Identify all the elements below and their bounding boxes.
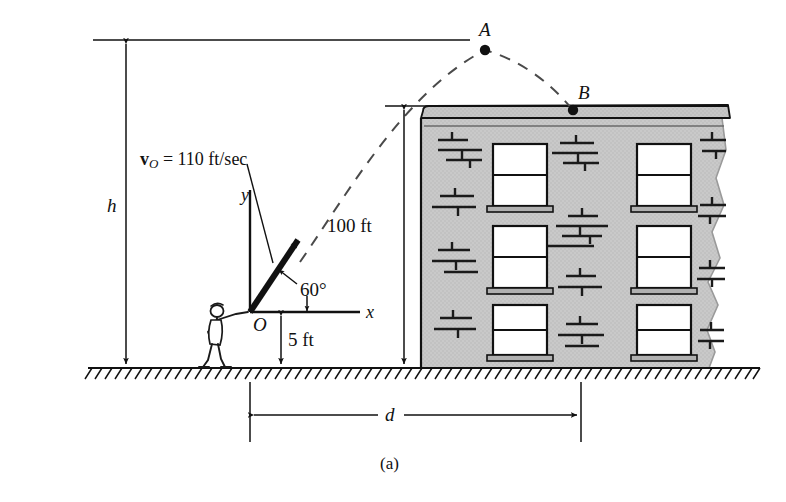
- window: [487, 144, 553, 212]
- window: [631, 305, 697, 361]
- point-b-dot: [568, 105, 578, 115]
- launch-height-label: 5 ft: [288, 330, 314, 349]
- x-axis-label: x: [366, 303, 374, 321]
- person-thrower: [199, 303, 248, 367]
- initial-velocity-label: vO = 110 ft/sec: [140, 150, 247, 170]
- projectile-figure-svg: [0, 0, 786, 502]
- velocity-subscript: O: [149, 156, 158, 171]
- launch-angle-label: 60°: [300, 280, 327, 299]
- figure-caption: (a): [380, 455, 399, 472]
- point-b-label: B: [578, 83, 590, 102]
- dimension-d: [250, 382, 581, 442]
- window: [631, 226, 697, 294]
- ground: [85, 368, 760, 379]
- velocity-value-text: = 110 ft/sec: [158, 149, 247, 169]
- window: [487, 305, 553, 361]
- window: [631, 144, 697, 212]
- velocity-symbol: v: [140, 149, 149, 169]
- building-height-label: 100 ft: [327, 216, 372, 235]
- y-axis-label: y: [241, 186, 249, 204]
- origin-label: O: [253, 315, 267, 334]
- dimension-h: [93, 40, 470, 364]
- height-apex-label: h: [107, 196, 117, 215]
- velocity-vector-arrow: [250, 240, 298, 312]
- figure-container: A B h 100 ft 5 ft d x y O vO = 110 ft/se…: [0, 0, 786, 502]
- distance-label: d: [385, 405, 395, 424]
- angle-leader-to-vector: [279, 270, 297, 284]
- building: [421, 105, 730, 368]
- point-a-dot: [480, 45, 490, 55]
- ground-hatching: [85, 368, 760, 379]
- point-a-label: A: [479, 20, 491, 39]
- window: [487, 226, 553, 294]
